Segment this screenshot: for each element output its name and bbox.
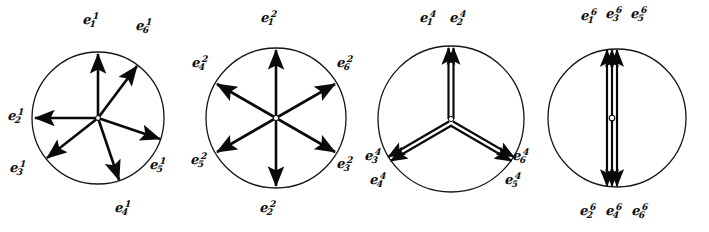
panel-1-vector-e3 <box>47 118 98 158</box>
basis-vector-figure: e11 e21 e31 e41 e51 e61 e12 e22 e32 e42 … <box>0 0 709 232</box>
label-panel1-e2: e21 <box>7 108 24 125</box>
panel-2-origin <box>273 115 278 120</box>
label-panel2-e3: e32 <box>336 156 353 173</box>
panel-2-vector-e5 <box>217 118 276 152</box>
label-panel4-e5: e56 <box>630 6 647 23</box>
label-panel4-e1: e16 <box>580 8 597 25</box>
panel-1-vector-e4 <box>98 118 119 180</box>
panel-3-origin <box>448 116 453 121</box>
label-panel4-e6: e66 <box>631 203 648 220</box>
label-panel3-e2: e24 <box>449 10 466 27</box>
label-panel1-e1: e11 <box>82 12 99 29</box>
panel-2-vector-e3 <box>276 118 335 152</box>
panel-1-vector-e6 <box>98 66 137 118</box>
label-panel1-e4: e41 <box>114 200 131 217</box>
label-panel3-e1: e14 <box>419 10 436 27</box>
label-panel2-e1: e12 <box>260 10 277 27</box>
panel-3-vector-e5 <box>453 122 514 158</box>
panel-3-vector-e4 <box>391 126 452 162</box>
panel-3-vector-e6 <box>451 126 512 162</box>
panel-3-vector-e3 <box>388 122 449 158</box>
panel-1-vector-e5 <box>98 118 160 139</box>
panel-2-vector-e6 <box>276 84 335 118</box>
label-panel1-e5: e51 <box>149 157 166 174</box>
label-panel4-e3: e36 <box>605 6 622 23</box>
label-panel2-e2: e22 <box>259 200 276 217</box>
label-panel1-e3: e31 <box>9 160 26 177</box>
panel-4-origin <box>609 115 615 121</box>
label-panel2-e4: e42 <box>191 55 208 72</box>
label-panel1-e6: e61 <box>135 18 152 35</box>
panel-2-vector-e4 <box>217 84 276 118</box>
label-panel4-e2: e26 <box>579 203 596 220</box>
panel-1-graphics <box>0 0 709 232</box>
label-panel3-e6: e64 <box>512 148 529 165</box>
label-panel3-e4: e44 <box>369 172 386 189</box>
label-panel2-e5: e52 <box>190 152 207 169</box>
label-panel3-e5: e54 <box>504 172 521 189</box>
label-panel2-e6: e62 <box>336 55 353 72</box>
panel-1-origin <box>96 116 101 121</box>
label-panel3-e3: e34 <box>364 148 381 165</box>
label-panel4-e4: e46 <box>605 203 622 220</box>
